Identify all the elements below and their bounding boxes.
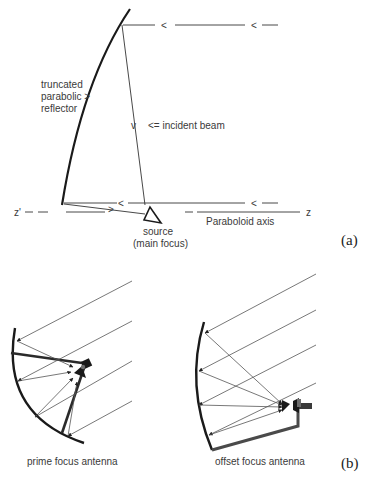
offset-focus-label: offset focus antenna (215, 456, 305, 467)
incident-beam-label: <= incident beam (148, 120, 225, 131)
reflected-ray (122, 25, 145, 205)
antenna-diagram: < < v < < > z' z truncated parabolic (0, 0, 377, 489)
offset-feed-horn-icon (282, 398, 312, 413)
prime-dish-reflector (13, 328, 84, 443)
axis-label-z: z (306, 207, 311, 218)
source-label-line2: (main focus) (133, 238, 188, 249)
prime-focus-antenna: prime focus antenna (11, 281, 132, 467)
reflector-label-line1: truncated (41, 79, 83, 90)
panel-a: < < v < < > z' z truncated parabolic (14, 9, 358, 249)
offset-focus-antenna: offset focus antenna (196, 274, 316, 467)
arrow-mark-left: < (251, 20, 257, 31)
arrow-mark-down: v (131, 120, 136, 131)
axis-label-z-prime: z' (14, 207, 21, 218)
arrow-mark-left: < (251, 198, 257, 209)
reflector-label-line2: parabolic > (41, 91, 90, 102)
prime-focus-label: prime focus antenna (27, 456, 118, 467)
panel-tag-a: (a) (341, 232, 358, 249)
source-feed-icon (144, 207, 161, 223)
panel-tag-b: (b) (341, 455, 359, 472)
arrow-mark-left: < (118, 198, 124, 209)
reflected-ray-lower (64, 204, 145, 214)
prime-feed-strut-lower (62, 368, 84, 433)
source-label-line1: source (143, 226, 173, 237)
arrow-mark-right: > (108, 204, 114, 215)
arrow-mark-left: < (161, 20, 167, 31)
reflector-label-line3: reflector (41, 103, 78, 114)
axis-label: Paraboloid axis (206, 216, 274, 227)
offset-dish-reflector (196, 322, 212, 450)
